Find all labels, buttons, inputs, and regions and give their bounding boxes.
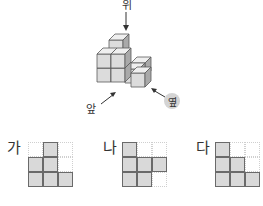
grid-cell xyxy=(230,157,245,172)
grid-cell xyxy=(58,142,73,157)
grid-cell xyxy=(230,172,245,187)
grid-cell xyxy=(215,142,230,157)
grid-cell xyxy=(58,157,73,172)
grid-cell xyxy=(43,142,58,157)
grid-cell xyxy=(122,157,137,172)
grid-cell xyxy=(43,157,58,172)
grid-cell xyxy=(137,172,152,187)
grid-cell xyxy=(58,172,73,187)
grid-cell xyxy=(28,157,43,172)
grid-cell xyxy=(152,172,167,187)
grid-cell xyxy=(122,142,137,157)
grid-cell xyxy=(137,157,152,172)
grid-cell xyxy=(28,172,43,187)
option-grid-da[interactable] xyxy=(215,142,260,187)
option-label-ga: 가 xyxy=(7,141,21,156)
option-label-na: 나 xyxy=(103,141,117,156)
grid-cell xyxy=(137,142,152,157)
front-direction-label: 앞 xyxy=(86,104,96,115)
grid-cell xyxy=(245,172,260,187)
grid-cell xyxy=(215,172,230,187)
stacked-cubes-figure xyxy=(90,28,165,93)
grid-cell xyxy=(215,157,230,172)
top-direction-label: 위 xyxy=(122,0,132,11)
grid-cell xyxy=(152,157,167,172)
grid-cell xyxy=(152,142,167,157)
option-grid-na[interactable] xyxy=(122,142,167,187)
grid-cell xyxy=(230,142,245,157)
grid-cell xyxy=(245,142,260,157)
grid-cell xyxy=(122,172,137,187)
front-arrow-icon xyxy=(100,91,118,105)
option-label-da: 다 xyxy=(196,141,210,156)
grid-cell xyxy=(245,157,260,172)
grid-cell xyxy=(28,142,43,157)
grid-cell xyxy=(43,172,58,187)
side-direction-label: 옆 xyxy=(164,93,180,109)
option-grid-ga[interactable] xyxy=(28,142,73,187)
